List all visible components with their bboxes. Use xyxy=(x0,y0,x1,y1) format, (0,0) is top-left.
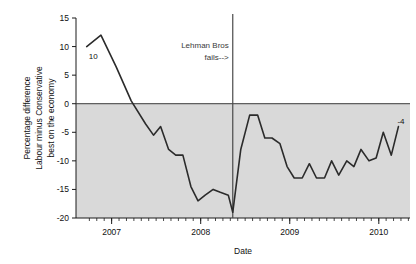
y-axis-title-line-3: best on the economy xyxy=(46,78,56,158)
y-tick-label: 15 xyxy=(60,13,70,23)
y-tick-label: -5 xyxy=(61,127,69,137)
y-axis-title-line-1: Percentage difference xyxy=(22,76,32,159)
x-tick-label: 2008 xyxy=(191,227,210,237)
lehman-annotation-line-1: Lehman Bros xyxy=(181,41,229,50)
x-tick-label: 2007 xyxy=(102,227,121,237)
chart-container: 151050-5-10-15-20 2007200820092010 Lehma… xyxy=(0,0,416,264)
y-tick-label: 10 xyxy=(60,42,70,52)
y-tick-label: -20 xyxy=(57,213,70,223)
shaded-rect xyxy=(76,104,410,218)
y-tick-label: 0 xyxy=(64,99,69,109)
lehman-annotation-line-2: fails--> xyxy=(205,53,230,62)
start-value-label: 10 xyxy=(89,52,98,61)
y-tick-label: 5 xyxy=(64,70,69,80)
x-tick-label: 2009 xyxy=(280,227,299,237)
x-tick-label: 2010 xyxy=(369,227,388,237)
x-axis-title: Date xyxy=(234,246,252,256)
y-axis-title-line-2: Labour minus Conservative xyxy=(34,66,44,170)
y-tick-label: -10 xyxy=(57,156,70,166)
negative-shaded-region xyxy=(76,104,410,218)
percentage-difference-line-chart: 151050-5-10-15-20 2007200820092010 Lehma… xyxy=(0,0,416,264)
y-tick-label: -15 xyxy=(57,184,70,194)
end-value-label: -4 xyxy=(397,117,405,126)
